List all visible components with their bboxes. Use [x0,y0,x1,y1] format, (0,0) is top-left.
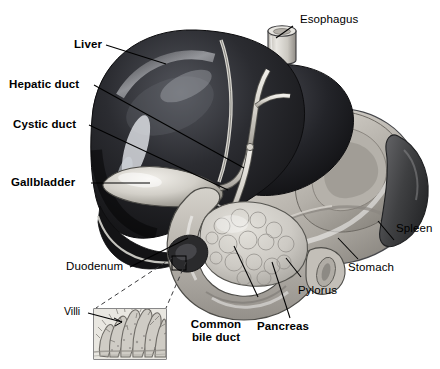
label-cystic-duct: Cystic duct [13,118,76,131]
label-pylorus: Pylorus [298,284,337,297]
label-common-bile-duct: Common bile duct [175,318,257,344]
label-pancreas: Pancreas [257,320,309,333]
label-esophagus: Esophagus [300,13,358,26]
label-duodenum: Duodenum [66,260,123,273]
label-spleen: Spleen [396,222,432,235]
duodenum-window-region [168,235,207,272]
label-common-bile-duct-line2: bile duct [192,331,240,343]
label-hepatic-duct: Hepatic duct [9,78,79,91]
label-liver: Liver [74,38,102,51]
label-common-bile-duct-line1: Common [191,318,241,330]
label-stomach: Stomach [348,261,394,274]
anatomy-figure: Esophagus Liver Hepatic duct Cystic duct… [0,0,440,369]
label-gallbladder: Gallbladder [11,176,75,189]
label-villi: Villi [64,306,80,318]
